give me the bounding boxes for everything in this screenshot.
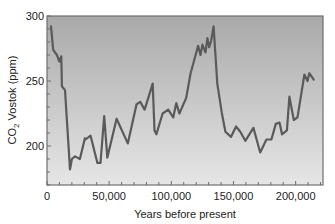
y-tick-label: 300 bbox=[26, 10, 44, 22]
co2-vostok-chart: 050,000100,000150,000200,000 200250300 Y… bbox=[0, 0, 335, 224]
y-axis-title: CO2 Vostok (ppm) bbox=[6, 56, 21, 145]
x-tick-label: 100,000 bbox=[151, 190, 191, 202]
chart-svg: 050,000100,000150,000200,000 200250300 Y… bbox=[0, 0, 335, 224]
y-tick-label: 200 bbox=[26, 140, 44, 152]
y-tick-label: 250 bbox=[26, 75, 44, 87]
x-tick-label: 200,000 bbox=[276, 190, 316, 202]
x-tick-label: 0 bbox=[44, 190, 50, 202]
x-tick-label: 150,000 bbox=[214, 190, 254, 202]
x-tick-label: 50,000 bbox=[92, 190, 126, 202]
x-axis-title: Years before present bbox=[134, 208, 236, 220]
